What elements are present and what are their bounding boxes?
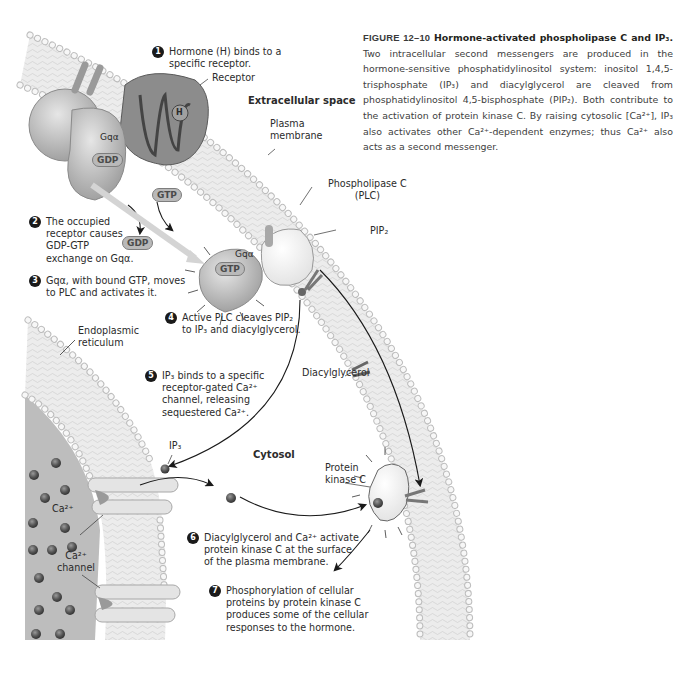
label-endoplasmic-reticulum: Endoplasmic reticulum (78, 325, 139, 349)
step-number: 4 (165, 312, 177, 324)
gtp-bound-chip: GTP (215, 262, 245, 276)
ip3-molecule (161, 465, 170, 474)
step-3: 3 Gqα, with bound GTP, moves to PLC and … (46, 275, 185, 299)
label-hormone: H (176, 107, 183, 119)
step-7: 7 Phosphorylation of cellular proteins b… (226, 585, 368, 634)
step-text: Hormone (H) binds to a specific receptor… (169, 46, 281, 70)
step-number: 3 (29, 275, 41, 287)
label-protein-kinase-c: Protein kinase C (325, 462, 366, 486)
label-plasma-membrane: Plasma membrane (270, 118, 323, 142)
label-gq-active: Gqα (235, 248, 254, 260)
label-ip3: IP₃ (169, 440, 181, 452)
label-gq-inactive: Gqα (100, 131, 119, 143)
step-text: Gqα, with bound GTP, moves to PLC and ac… (46, 275, 185, 299)
step-number: 6 (187, 532, 199, 544)
region-cytosol: Cytosol (253, 449, 295, 461)
step-6: 6 Diacylglycerol and Ca²⁺ activate prote… (204, 532, 359, 569)
step-number: 2 (29, 216, 41, 228)
label-pip2: PIP₂ (370, 225, 388, 237)
label-phospholipase-c: Phospholipase C (PLC) (328, 178, 407, 202)
gdp-bound-chip: GDP (92, 153, 123, 167)
region-extracellular-space: Extracellular space (248, 95, 356, 107)
step-number: 1 (152, 46, 164, 58)
step-text: Active PLC cleaves PIP₂ to IP₃ and diacy… (182, 312, 300, 336)
label-ca-channel: Ca²⁺ channel (57, 550, 95, 574)
label-diacylglycerol: Diacylglycerol (302, 367, 369, 379)
step-text: Diacylglycerol and Ca²⁺ activate protein… (204, 532, 359, 569)
step-number: 5 (145, 370, 157, 382)
step-text: Phosphorylation of cellular proteins by … (226, 585, 368, 634)
step-text: IP₃ binds to a specific receptor-gated C… (162, 370, 264, 419)
figure-title: Hormone-activated phospholipase C and IP… (434, 32, 673, 43)
gtp-free-chip: GTP (152, 188, 182, 202)
step-5: 5 IP₃ binds to a specific receptor-gated… (162, 370, 264, 419)
figure-caption: FIGURE 12–10 Hormone-activated phospholi… (363, 30, 673, 155)
step-2: 2 The occupied receptor causes GDP-GTP e… (46, 216, 134, 265)
receptor (120, 74, 208, 165)
step-number: 7 (209, 585, 221, 597)
step-text: The occupied receptor causes GDP-GTP exc… (46, 216, 134, 265)
step-4: 4 Active PLC cleaves PIP₂ to IP₃ and dia… (182, 312, 300, 336)
label-ca-ion: Ca²⁺ (52, 503, 74, 515)
caption-body: Two intracellular second messengers are … (363, 48, 673, 153)
figure-label: FIGURE 12–10 (363, 32, 430, 43)
step-1: 1 Hormone (H) binds to a specific recept… (169, 46, 281, 70)
label-receptor: Receptor (212, 72, 255, 84)
